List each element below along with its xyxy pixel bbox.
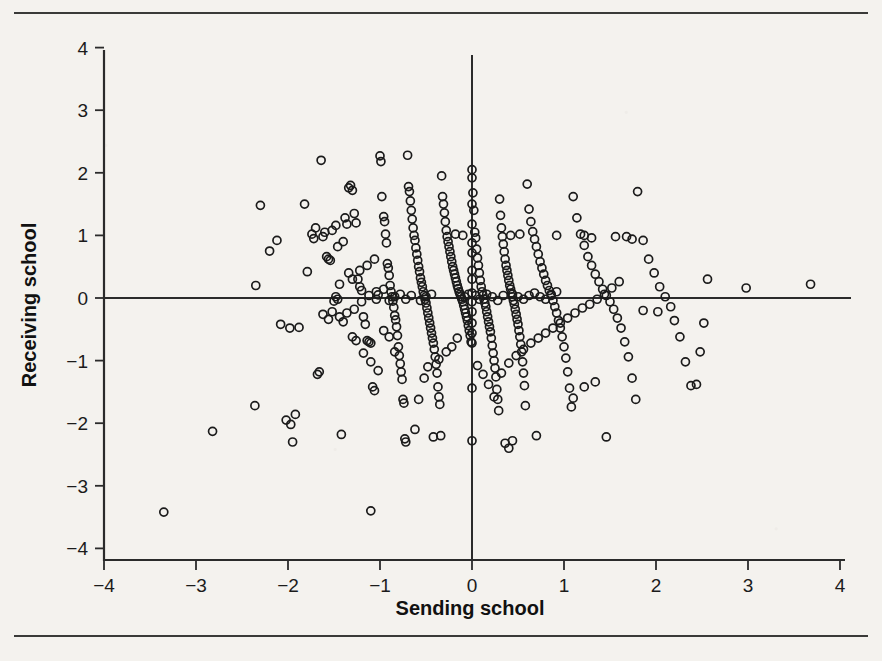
x-axis-tick-labels: −4−3−2−101234 (93, 575, 846, 596)
data-point (696, 348, 704, 356)
data-point (556, 319, 564, 327)
data-point (612, 233, 620, 241)
data-point (645, 255, 653, 263)
data-point (407, 206, 415, 214)
data-point (692, 380, 700, 388)
data-point (380, 285, 388, 293)
y-tick-label-2: 2 (77, 163, 88, 184)
data-point (608, 284, 616, 292)
data-point (359, 349, 367, 357)
data-point (441, 218, 449, 226)
data-point (617, 324, 625, 332)
x-tick-label--1: −1 (369, 575, 391, 596)
data-point (303, 268, 311, 276)
y-tick-label--4: −4 (66, 538, 88, 559)
y-tick-label-4: 4 (77, 38, 88, 59)
data-point (312, 224, 320, 232)
data-point (405, 188, 413, 196)
data-point (367, 507, 375, 515)
data-point (584, 253, 592, 261)
data-point (591, 378, 599, 386)
data-point (527, 218, 535, 226)
bottom-horizontal-rule (14, 635, 868, 637)
data-point (661, 293, 669, 301)
data-point (424, 363, 432, 371)
data-point (593, 295, 601, 303)
data-point (448, 343, 456, 351)
data-point (381, 218, 389, 226)
data-point (613, 314, 621, 322)
data-point (496, 195, 504, 203)
data-point (497, 211, 505, 219)
data-point (277, 320, 285, 328)
data-point (507, 231, 515, 239)
data-point (532, 432, 540, 440)
data-point (374, 367, 382, 375)
data-point (256, 201, 264, 209)
data-point (393, 332, 401, 340)
data-point (497, 224, 505, 232)
y-axis-tick-labels: 43210−1−2−3−4 (66, 38, 88, 560)
data-point (520, 382, 528, 390)
data-point (209, 427, 217, 435)
data-point (543, 281, 551, 289)
data-point (700, 319, 708, 327)
data-point (650, 269, 658, 277)
x-axis-ticks (104, 560, 840, 570)
y-tick-label-3: 3 (77, 100, 88, 121)
data-point (453, 334, 461, 342)
data-point (289, 438, 297, 446)
data-point (560, 343, 568, 351)
data-point (569, 394, 577, 402)
data-point (420, 374, 428, 382)
data-point (295, 323, 303, 331)
data-point (348, 275, 356, 283)
data-point (415, 395, 423, 403)
data-point (571, 309, 579, 317)
data-point (382, 239, 390, 247)
data-point (567, 403, 575, 411)
data-point (656, 283, 664, 291)
data-point (564, 368, 572, 376)
y-tick-label-1: 1 (77, 225, 88, 246)
data-point (542, 329, 550, 337)
data-point (580, 241, 588, 249)
data-point (654, 308, 662, 316)
x-tick-label--2: −2 (277, 575, 299, 596)
data-point (485, 380, 493, 388)
data-point (350, 305, 358, 313)
data-point (433, 369, 441, 377)
data-point (632, 395, 640, 403)
data-point (411, 425, 419, 433)
data-point (602, 433, 610, 441)
x-tick-label-2: 2 (651, 575, 662, 596)
data-point (704, 275, 712, 283)
data-point (569, 193, 577, 201)
x-tick-label--3: −3 (185, 575, 207, 596)
data-point (440, 209, 448, 217)
data-point (667, 303, 675, 311)
data-point (527, 339, 535, 347)
data-point (562, 354, 570, 362)
y-tick-label--1: −1 (66, 351, 88, 372)
data-point (573, 214, 581, 222)
data-point (438, 172, 446, 180)
data-point (610, 305, 618, 313)
data-point (479, 370, 487, 378)
data-point (558, 333, 566, 341)
data-point (363, 261, 371, 269)
data-point (315, 368, 323, 376)
data-point (639, 307, 647, 315)
data-point (347, 181, 355, 189)
x-tick-label-0: 0 (467, 575, 478, 596)
data-point (564, 314, 572, 322)
x-tick-label--4: −4 (93, 575, 115, 596)
data-point (520, 369, 528, 377)
data-point (336, 280, 344, 288)
y-axis-ticks (95, 48, 104, 549)
data-point (339, 238, 347, 246)
data-point (681, 358, 689, 366)
data-point (382, 230, 390, 238)
data-point (639, 236, 647, 244)
data-point (676, 333, 684, 341)
